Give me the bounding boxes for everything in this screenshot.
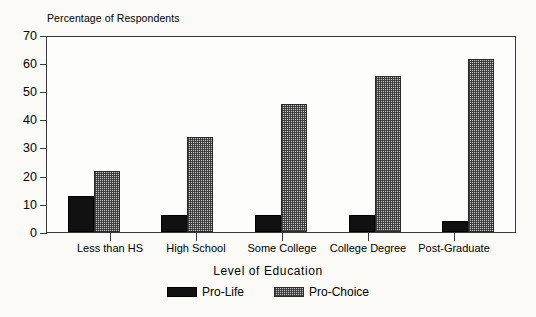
bars-layer	[47, 37, 515, 232]
y-tick-label-20: 20	[23, 171, 37, 184]
bar-chart-figure: Percentage of Respondents 70 60 50 40 30…	[0, 0, 536, 317]
bar-group-some-college	[255, 37, 307, 232]
y-tick-label-60: 60	[23, 58, 37, 71]
y-tick-label-70: 70	[23, 30, 37, 43]
y-tick-0	[40, 233, 47, 234]
x-label-college-degree: College Degree	[330, 243, 406, 254]
bar-group-high-school	[161, 37, 213, 232]
chart-legend: Pro-Life Pro-Choice	[0, 286, 536, 298]
x-label-less-than-hs: Less than HS	[77, 243, 143, 254]
legend-label-pro-life: Pro-Life	[202, 286, 244, 298]
legend-swatch-pro-choice	[274, 287, 304, 297]
bar-pro-life-less-than-hs	[68, 196, 94, 232]
bar-pro-life-college-degree	[349, 215, 375, 232]
bar-pro-life-high-school	[161, 215, 187, 232]
y-tick-label-10: 10	[23, 199, 37, 212]
bar-pro-choice-college-degree	[375, 76, 401, 232]
x-tick-less-than-hs	[110, 233, 111, 241]
bar-pro-choice-less-than-hs	[94, 171, 120, 232]
x-label-high-school: High School	[166, 243, 225, 254]
legend-item-pro-choice: Pro-Choice	[274, 286, 369, 298]
bar-group-less-than-hs	[68, 37, 120, 232]
y-axis-title: Percentage of Respondents	[47, 12, 180, 24]
y-tick-label-0: 0	[30, 227, 37, 240]
bar-pro-choice-some-college	[281, 104, 307, 232]
bar-pro-life-post-graduate	[442, 221, 468, 232]
bar-pro-choice-high-school	[187, 137, 213, 232]
x-axis-title: Level of Education	[0, 264, 536, 278]
x-tick-some-college	[282, 233, 283, 241]
x-tick-college-degree	[368, 233, 369, 241]
bar-pro-life-some-college	[255, 215, 281, 232]
x-label-post-graduate: Post-Graduate	[418, 243, 490, 254]
y-tick-label-40: 40	[23, 114, 37, 127]
x-tick-post-graduate	[454, 233, 455, 241]
x-label-some-college: Some College	[247, 243, 316, 254]
plot-area	[46, 36, 516, 233]
bar-pro-choice-post-graduate	[468, 59, 494, 232]
bar-group-post-graduate	[442, 37, 494, 232]
legend-label-pro-choice: Pro-Choice	[309, 286, 369, 298]
legend-item-pro-life: Pro-Life	[167, 286, 244, 298]
x-tick-high-school	[196, 233, 197, 241]
legend-swatch-pro-life	[167, 287, 197, 297]
bar-group-college-degree	[349, 37, 401, 232]
y-tick-label-30: 30	[23, 142, 37, 155]
y-tick-label-50: 50	[23, 86, 37, 99]
